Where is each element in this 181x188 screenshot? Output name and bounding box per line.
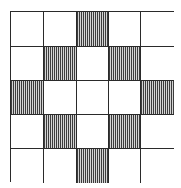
- blank-cell: [109, 12, 141, 47]
- hatched-cell: [109, 47, 141, 81]
- diamond-grid-diagram: [10, 11, 174, 182]
- hatched-cell: [109, 115, 141, 149]
- blank-cell: [109, 149, 141, 183]
- hatched-cell: [44, 47, 77, 81]
- blank-cell: [11, 47, 44, 81]
- blank-cell: [141, 149, 174, 183]
- hatched-cell: [141, 81, 174, 115]
- blank-cell: [11, 115, 44, 149]
- blank-cell: [11, 12, 44, 47]
- blank-cell: [141, 12, 174, 47]
- blank-cell: [77, 47, 109, 81]
- blank-cell: [44, 12, 77, 47]
- blank-cell: [44, 81, 77, 115]
- blank-cell: [77, 115, 109, 149]
- hatched-cell: [77, 149, 109, 183]
- blank-cell: [11, 149, 44, 183]
- hatched-cell: [11, 81, 44, 115]
- blank-cell: [44, 149, 77, 183]
- hatched-cell: [77, 12, 109, 47]
- blank-cell: [141, 47, 174, 81]
- blank-cell: [141, 115, 174, 149]
- hatched-cell: [44, 115, 77, 149]
- blank-cell: [77, 81, 109, 115]
- blank-cell: [109, 81, 141, 115]
